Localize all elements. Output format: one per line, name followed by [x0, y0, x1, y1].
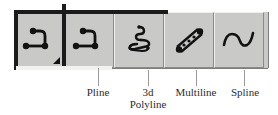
leader-line-multiline — [196, 70, 197, 86]
leader-line-3d — [148, 70, 149, 86]
callout-text: Spline — [231, 86, 259, 98]
polyline-icon — [22, 25, 56, 55]
draw-toolbar — [14, 12, 268, 68]
toolbar-button-pline[interactable] — [64, 12, 114, 68]
figure-root: Pline 3d Polyline Multiline Spline — [0, 0, 278, 115]
leader-line-spline — [244, 70, 245, 86]
leader-line-pline — [98, 68, 99, 86]
callout-text-line2: Polyline — [122, 99, 174, 111]
toolbar-button-multiline[interactable] — [164, 12, 214, 68]
toolbar-button-spline[interactable] — [214, 12, 264, 68]
flyout-frame-divider — [62, 4, 66, 66]
callout-text: Multiline — [176, 86, 217, 98]
polyline-icon — [72, 25, 106, 55]
3d-polyline-icon — [122, 24, 156, 56]
callout-text: Pline — [87, 86, 110, 98]
callout-text-line1: 3d — [143, 86, 154, 98]
multiline-icon — [172, 24, 206, 56]
spline-icon — [221, 26, 257, 54]
callout-label-spline: Spline — [222, 87, 268, 99]
callout-label-pline: Pline — [74, 87, 122, 99]
toolbar-button-pline-flyout[interactable] — [14, 12, 64, 68]
flyout-arrow-icon[interactable] — [53, 57, 60, 64]
toolbar-button-3d-polyline[interactable] — [114, 12, 164, 68]
callout-label-multiline: Multiline — [166, 87, 226, 99]
flyout-frame-top — [62, 10, 168, 14]
